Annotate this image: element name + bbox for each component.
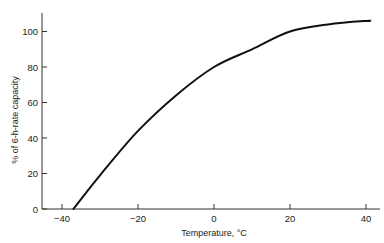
y-tick-label: 60: [27, 97, 38, 108]
x-tick-label: 20: [285, 213, 296, 224]
x-tick-label: 40: [361, 213, 372, 224]
y-axis-label: % of 6-h-rate capacity: [10, 76, 20, 164]
y-tick-label: 100: [22, 26, 38, 37]
y-tick-label: 40: [27, 133, 38, 144]
chart: −40−2002040020406080100 Temperature, °C …: [0, 0, 384, 243]
ticks: −40−2002040020406080100: [22, 26, 371, 224]
axes: [42, 13, 380, 209]
y-tick-label: 80: [27, 62, 38, 73]
x-tick-label: −40: [54, 213, 70, 224]
capacity-curve: [73, 21, 370, 209]
y-tick-label: 0: [33, 204, 38, 215]
series-layer: [73, 21, 370, 209]
x-tick-label: −20: [130, 213, 146, 224]
y-tick-label: 20: [27, 168, 38, 179]
x-axis-label: Temperature, °C: [181, 228, 247, 238]
x-tick-label: 0: [211, 213, 216, 224]
